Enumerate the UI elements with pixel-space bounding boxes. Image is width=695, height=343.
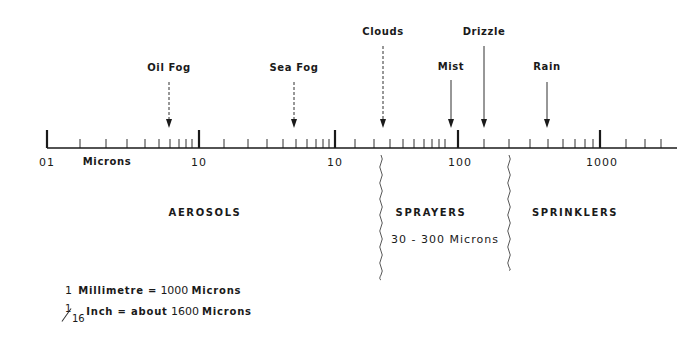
arrow-label-drizzle: Drizzle	[463, 26, 506, 37]
arrow-head-icon	[544, 119, 550, 128]
tick-label: 1000	[586, 156, 618, 169]
note-inch-unit: Microns	[202, 306, 252, 317]
note-inch-value: 1600	[171, 305, 199, 318]
sprayers-range-label: 30 - 300 Microns	[391, 233, 499, 246]
tick-label: 100	[448, 156, 472, 169]
fraction-denominator: 16	[72, 313, 85, 324]
arrow-label-clouds: Clouds	[362, 26, 403, 37]
arrow-head-icon	[448, 119, 454, 128]
arrow-head-icon	[291, 119, 297, 128]
arrow-label-sea-fog: Sea Fog	[270, 62, 319, 73]
region-label-aerosols: AEROSOLS	[169, 207, 242, 218]
note-millimetre-text: Millimetre =	[78, 285, 157, 296]
arrow-label-rain: Rain	[533, 61, 560, 72]
region-label-sprayers: SPRAYERS	[396, 207, 467, 218]
note-millimetre: 1 Millimetre = 1000 Microns	[65, 284, 241, 297]
arrow-head-icon	[481, 119, 487, 128]
tick-label: 10	[191, 156, 207, 169]
note-millimetre-prefix: 1	[65, 284, 72, 297]
arrow-label-oil-fog: Oil Fog	[147, 62, 191, 73]
arrow-head-icon	[166, 119, 172, 128]
note-inch: 1 16 Inch = about 1600 Microns	[65, 307, 252, 325]
tick-label: 10	[327, 156, 343, 169]
axis-unit-label: Microns	[83, 156, 131, 167]
note-inch-text: Inch = about	[86, 306, 168, 317]
region-label-sprinklers: SPRINKLERS	[532, 207, 618, 218]
wavy-divider	[508, 155, 511, 270]
arrow-label-mist: Mist	[438, 61, 465, 72]
note-millimetre-unit: Microns	[192, 285, 242, 296]
wavy-divider	[380, 155, 383, 280]
tick-label: 01	[39, 156, 55, 169]
note-millimetre-value: 1000	[160, 284, 188, 297]
fraction-one-sixteenth: 1 16	[65, 307, 83, 325]
arrow-head-icon	[380, 119, 386, 128]
droplet-size-diagram: 0110101001000Oil FogSea FogCloudsMistDri…	[0, 0, 695, 343]
